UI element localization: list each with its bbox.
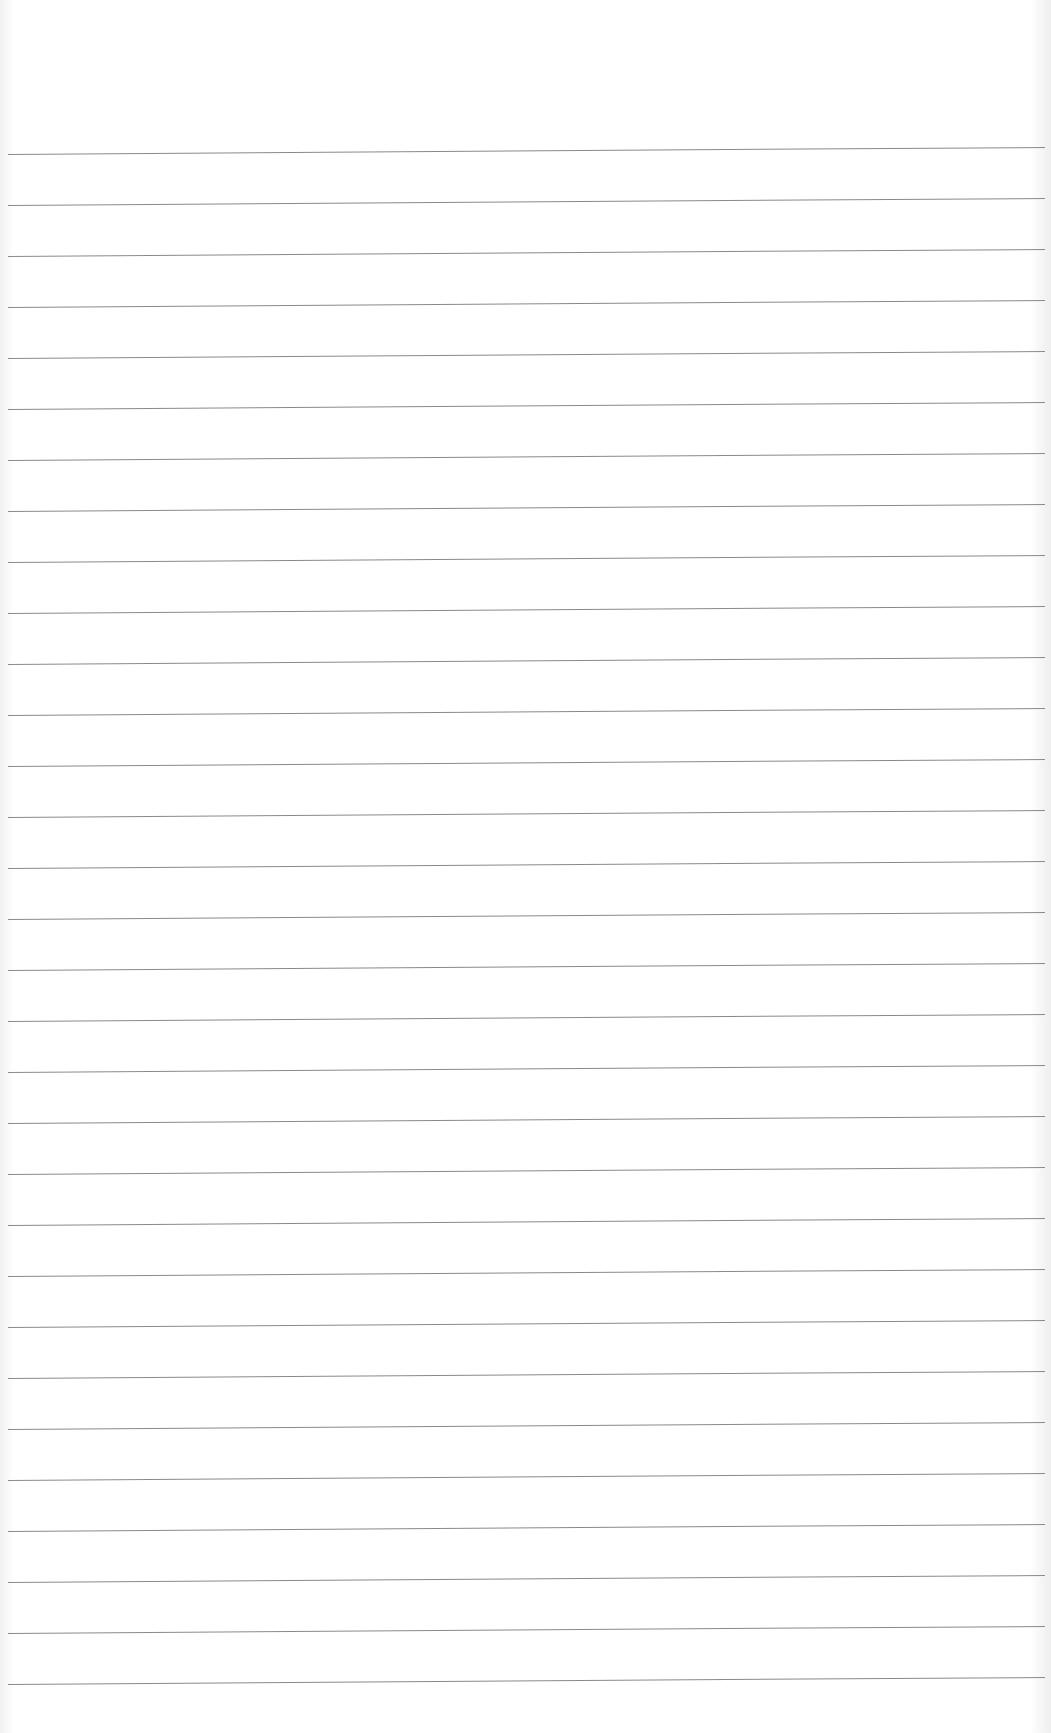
ruled-line <box>8 198 1045 206</box>
lined-paper-page <box>0 0 1051 1733</box>
ruled-line <box>8 402 1045 410</box>
ruled-line <box>8 1116 1045 1124</box>
ruled-line <box>8 147 1045 155</box>
ruled-line <box>8 555 1045 563</box>
ruled-line <box>8 810 1045 818</box>
bleed-through-text <box>14 6 1014 66</box>
ruled-line <box>8 1575 1045 1583</box>
ruled-line <box>8 1422 1045 1430</box>
ruled-line <box>8 963 1045 971</box>
ruled-line <box>8 1269 1045 1277</box>
ruled-line <box>8 861 1045 869</box>
ruled-line <box>8 1167 1045 1175</box>
ruled-line <box>8 1218 1045 1226</box>
ruled-line <box>8 1524 1045 1532</box>
ruled-line <box>8 1371 1045 1379</box>
ruled-line <box>8 759 1045 767</box>
ruled-line <box>8 453 1045 461</box>
ruled-line <box>8 912 1045 920</box>
ruled-line <box>8 657 1045 665</box>
ruled-line <box>8 606 1045 614</box>
ruled-line <box>8 1320 1045 1328</box>
ruled-line <box>8 249 1045 257</box>
ruled-line <box>8 300 1045 308</box>
ruled-line <box>8 1677 1045 1685</box>
ruled-line <box>8 1065 1045 1073</box>
ruled-line <box>8 708 1045 716</box>
ruled-line <box>8 1014 1045 1022</box>
ruled-line <box>8 1626 1045 1634</box>
ruled-line <box>8 504 1045 512</box>
ruled-line <box>8 351 1045 359</box>
ruled-line <box>8 1473 1045 1481</box>
